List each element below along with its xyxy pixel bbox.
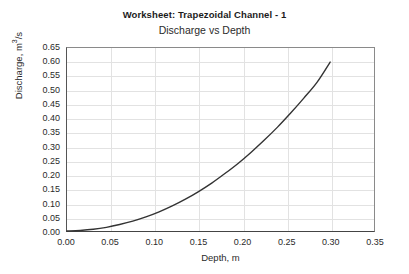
x-tick-label: 0.10 xyxy=(134,237,174,247)
y-tick-label: 0.35 xyxy=(18,127,60,137)
y-tick-label: 0.00 xyxy=(18,227,60,237)
y-tick-label: 0.30 xyxy=(18,142,60,152)
y-tick-label: 0.20 xyxy=(18,170,60,180)
y-tick-label: 0.65 xyxy=(18,42,60,52)
y-tick-label: 0.25 xyxy=(18,156,60,166)
y-tick-label: 0.60 xyxy=(18,56,60,66)
y-tick-label: 0.15 xyxy=(18,184,60,194)
x-tick-label: 0.20 xyxy=(223,237,263,247)
y-tick-label: 0.55 xyxy=(18,70,60,80)
chart-subtitle: Discharge vs Depth xyxy=(0,24,409,36)
y-tick-label: 0.05 xyxy=(18,213,60,223)
chart-title: Worksheet: Trapezoidal Channel - 1 xyxy=(0,9,409,20)
y-axis-label-suffix: /s xyxy=(13,32,24,39)
x-tick-label: 0.05 xyxy=(90,237,130,247)
y-tick-label: 0.40 xyxy=(18,113,60,123)
x-tick-label: 0.35 xyxy=(355,237,395,247)
x-tick-label: 0.30 xyxy=(311,237,351,247)
y-tick-label: 0.50 xyxy=(18,85,60,95)
y-tick-label: 0.45 xyxy=(18,99,60,109)
x-tick-label: 0.15 xyxy=(178,237,218,247)
x-axis-label: Depth, m xyxy=(66,252,375,263)
x-tick-label: 0.25 xyxy=(267,237,307,247)
discharge-curve-svg xyxy=(67,48,374,231)
plot-area xyxy=(66,47,375,232)
y-tick-label: 0.10 xyxy=(18,199,60,209)
chart-page: Worksheet: Trapezoidal Channel - 1 Disch… xyxy=(0,0,409,274)
discharge-curve-path xyxy=(67,62,330,231)
x-tick-label: 0.00 xyxy=(46,237,86,247)
